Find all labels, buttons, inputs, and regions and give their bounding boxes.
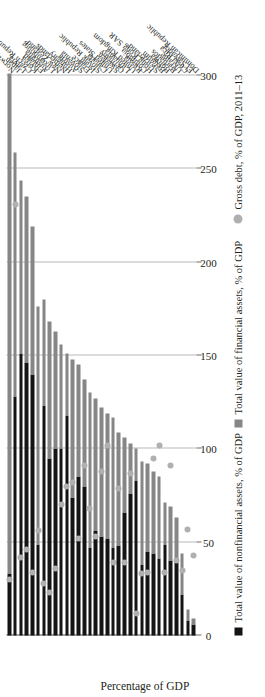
bar-segment-nonfinancial-assets	[186, 620, 190, 635]
gross-debt-marker	[6, 576, 12, 582]
bar-row	[82, 75, 86, 635]
bar-row	[191, 75, 195, 635]
bar-segment-nonfinancial-assets	[76, 476, 80, 635]
gross-debt-marker	[86, 505, 92, 511]
legend-item[interactable]: Total value of financial assets, % of GD…	[232, 240, 243, 427]
bar-segment-nonfinancial-assets	[7, 573, 11, 635]
bar-segment-financial-assets	[19, 180, 23, 354]
gross-debt-marker	[110, 559, 116, 565]
axis-tick-label: 0	[205, 629, 211, 641]
bar-segment-financial-assets	[30, 226, 34, 373]
legend-square-icon	[234, 419, 242, 427]
bar-row	[76, 75, 80, 635]
bar-segment-financial-assets	[36, 306, 40, 543]
axis-tick-label: 300	[200, 69, 217, 81]
bar-row	[24, 75, 28, 635]
chart-rotated-container: 050100150200250300 Percentage of GDP Nor…	[0, 0, 265, 697]
bar-segment-nonfinancial-assets	[24, 362, 28, 635]
gross-debt-marker	[75, 535, 81, 541]
axis-tick-label: 250	[200, 162, 217, 174]
chart-legend: Total value of nonfinancial assets, % of…	[232, 35, 258, 635]
gross-debt-marker	[40, 580, 46, 586]
axis-tick-label: 200	[200, 256, 217, 268]
bar-segment-financial-assets	[53, 331, 57, 449]
gross-debt-marker	[29, 569, 35, 575]
bar-row	[47, 75, 51, 635]
bar-segment-nonfinancial-assets	[168, 560, 172, 635]
bar-segment-financial-assets	[186, 609, 190, 620]
bar-segment-financial-assets	[128, 443, 132, 493]
bar-segment-financial-assets	[163, 502, 167, 543]
bar-segment-nonfinancial-assets	[59, 448, 63, 635]
bar-row	[157, 75, 161, 635]
bar-segment-nonfinancial-assets	[116, 545, 120, 635]
bar-segment-nonfinancial-assets	[93, 530, 97, 635]
bar-segment-financial-assets	[76, 364, 80, 476]
bar-segment-nonfinancial-assets	[191, 624, 195, 635]
plot-inner	[6, 75, 196, 635]
legend-label: Total value of nonfinancial assets, % of…	[232, 433, 243, 622]
bar-segment-financial-assets	[140, 461, 144, 564]
bar-row	[53, 75, 57, 635]
gross-debt-marker	[115, 485, 121, 491]
bar-segment-nonfinancial-assets	[42, 405, 46, 635]
gross-debt-marker	[58, 501, 64, 507]
gross-debt-marker	[150, 455, 156, 461]
bar-segment-nonfinancial-assets	[30, 374, 34, 635]
bar-row	[122, 75, 126, 635]
bar-row	[111, 75, 115, 635]
bar-row	[116, 75, 120, 635]
bar-row	[70, 75, 74, 635]
bar-segment-nonfinancial-assets	[163, 544, 167, 635]
bar-row	[163, 75, 167, 635]
gross-debt-marker	[190, 552, 196, 558]
gross-debt-marker	[98, 468, 104, 474]
bar-row	[30, 75, 34, 635]
gross-debt-marker	[133, 610, 139, 616]
bar-segment-nonfinancial-assets	[105, 538, 109, 635]
bar-row	[42, 75, 46, 635]
chart-canvas: 050100150200250300 Percentage of GDP Nor…	[0, 0, 265, 697]
bar-segment-financial-assets	[13, 152, 17, 397]
bar-segment-nonfinancial-assets	[13, 396, 17, 635]
bar-row	[174, 75, 178, 635]
bar-segment-financial-assets	[42, 299, 46, 405]
bar-segment-financial-assets	[47, 321, 51, 457]
bar-row	[145, 75, 149, 635]
bar-segment-nonfinancial-assets	[99, 536, 103, 635]
gross-debt-marker	[179, 567, 185, 573]
bar-segment-nonfinancial-assets	[82, 486, 86, 635]
bar-row	[99, 75, 103, 635]
legend-label: Total value of financial assets, % of GD…	[232, 240, 243, 414]
gross-debt-marker	[127, 470, 133, 476]
axis-tick-label: 100	[200, 442, 217, 454]
bar-segment-nonfinancial-assets	[180, 594, 184, 635]
bar-segment-financial-assets	[93, 398, 97, 531]
axis-tick-label: 150	[200, 349, 217, 361]
gross-debt-marker	[104, 442, 110, 448]
gross-debt-marker	[161, 569, 167, 575]
legend-label: Gross debt, % of GDP, 2011–13	[232, 74, 243, 209]
bar-segment-financial-assets	[180, 553, 184, 594]
gross-debt-marker	[63, 483, 69, 489]
legend-item[interactable]: Total value of nonfinancial assets, % of…	[232, 433, 243, 635]
legend-item[interactable]: Gross debt, % of GDP, 2011–13	[232, 74, 243, 223]
bar-segment-financial-assets	[174, 517, 178, 560]
bar-row	[36, 75, 40, 635]
bar-row	[93, 75, 97, 635]
bar-row	[19, 75, 23, 635]
bar-segment-financial-assets	[7, 73, 11, 573]
bar-segment-financial-assets	[111, 417, 115, 548]
gross-debt-marker	[121, 559, 127, 565]
bar-segment-nonfinancial-assets	[88, 547, 92, 635]
gross-debt-marker	[23, 546, 29, 552]
bar-row	[168, 75, 172, 635]
legend-square-icon	[234, 627, 242, 635]
gross-debt-marker	[167, 462, 173, 468]
bar-row	[88, 75, 92, 635]
gross-debt-marker	[52, 565, 58, 571]
bar-segment-financial-assets	[70, 359, 74, 497]
axis-tick	[196, 634, 201, 635]
bar-segment-financial-assets	[24, 196, 28, 362]
gross-debt-marker	[144, 569, 150, 575]
